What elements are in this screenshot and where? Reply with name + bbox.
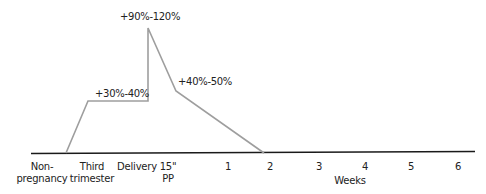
tick-line2: trimester xyxy=(68,173,116,185)
annotation-postpartum: +40%-50% xyxy=(178,76,232,88)
tick-label-week-2: 2 xyxy=(264,161,276,173)
tick-label-non-pregnancy: Non- pregnancy xyxy=(14,161,70,185)
tick-line1: Third xyxy=(68,161,116,173)
tick-line2: pregnancy xyxy=(14,173,70,185)
tick-label-week-4: 4 xyxy=(359,161,371,173)
tick-line1: 15" xyxy=(158,161,178,173)
annotation-delivery-peak: +90%-120% xyxy=(120,11,180,23)
tick-label-week-5: 5 xyxy=(405,161,417,173)
tick-line2: PP xyxy=(158,173,178,185)
tick-line1: Delivery xyxy=(114,161,160,173)
x-axis xyxy=(31,152,475,154)
tick-label-week-1: 1 xyxy=(222,161,234,173)
tick-label-week-6: 6 xyxy=(452,161,464,173)
x-axis-title: Weeks xyxy=(328,175,372,187)
tick-line1: 2 xyxy=(264,161,276,173)
tick-label-week-3: 3 xyxy=(313,161,325,173)
tick-line1: 6 xyxy=(452,161,464,173)
tick-line1: 3 xyxy=(313,161,325,173)
tick-line1: 5 xyxy=(405,161,417,173)
tick-line1: Non- xyxy=(14,161,70,173)
tick-line1: 1 xyxy=(222,161,234,173)
tick-label-third-trimester: Third trimester xyxy=(68,161,116,185)
tick-label-delivery: Delivery xyxy=(114,161,160,173)
annotation-third-trimester: +30%-40% xyxy=(95,88,149,100)
tick-line1: 4 xyxy=(359,161,371,173)
tick-label-15pp: 15" PP xyxy=(158,161,178,185)
